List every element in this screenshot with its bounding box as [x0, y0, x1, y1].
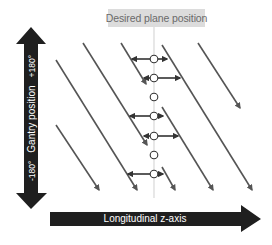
- gantry-min-label: -180°: [26, 161, 36, 181]
- gantry-position-axis-label: -180° Gantry position +180°: [26, 55, 37, 181]
- diagram-canvas: [0, 0, 272, 245]
- gantry-max-label: +180°: [26, 55, 36, 78]
- interpolated-point-circle: [150, 112, 158, 120]
- helix-segment: [162, 45, 252, 190]
- helix-segment: [198, 43, 240, 108]
- interpolated-point-circle: [150, 74, 158, 82]
- helix-segment: [121, 43, 146, 84]
- interpolated-point-circle: [150, 93, 158, 101]
- helical-interpolation-diagram: Desired plane position -180° Gantry posi…: [0, 0, 272, 245]
- interpolated-point-circle: [150, 170, 158, 178]
- helix-segment: [56, 125, 99, 190]
- helix-segment: [162, 107, 213, 190]
- desired-plane-position-label: Desired plane position: [108, 9, 205, 27]
- longitudinal-z-axis-label: Longitudinal z-axis: [50, 211, 240, 226]
- gantry-position-label: Gantry position: [26, 85, 37, 152]
- interpolated-point-circle: [150, 132, 158, 140]
- interpolated-point-circle: [150, 151, 158, 159]
- helix-segment: [56, 60, 137, 190]
- helix-segment: [162, 167, 175, 190]
- interpolated-point-circle: [150, 55, 158, 63]
